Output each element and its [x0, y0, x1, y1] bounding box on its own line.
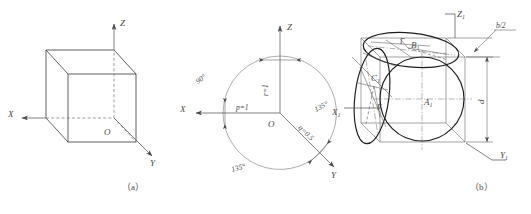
figure-a-axis-label-y: Y	[150, 158, 156, 168]
arc-angle-xz	[223, 56, 280, 113]
axis-y-line	[280, 113, 334, 167]
figure-middle-angle-xy: 135°	[230, 162, 246, 174]
figure-a-origin-label: O	[104, 127, 111, 137]
figure-b-axis-label-y1: Y1	[500, 150, 508, 161]
figure-b-gamma-label-left: Γ	[376, 103, 382, 112]
figure-sheet: Z X Y O （a） Z X Y O	[0, 0, 531, 214]
figure-b-group: X1 Z1 Y1 A1 B1 C1 Γ Γ b/2 d （b）	[331, 9, 516, 192]
figure-b-axis-label-z1: Z1	[457, 9, 465, 20]
figure-middle-coefficient-p: p=1	[235, 103, 249, 112]
tick-q-unit-2	[320, 144, 327, 152]
figure-middle-axis-label-x: X	[179, 104, 186, 114]
figure-b-ellipse-label-a1: A1	[423, 97, 433, 108]
axis-y1-leader	[466, 143, 492, 160]
figure-b-dimension-d: d	[476, 99, 486, 104]
figure-a-axes	[22, 24, 152, 156]
dimension-b-half-arrow	[474, 30, 496, 52]
cube-front-face	[68, 74, 136, 142]
figure-middle-axis-label-y: Y	[331, 170, 337, 180]
figure-a-axis-label-z: Z	[120, 18, 126, 28]
figure-b-ellipse-label-b1: B1	[411, 40, 420, 51]
cube-b-center-lines	[366, 46, 472, 150]
figure-b-dimension-b-half: b/2	[496, 21, 506, 30]
figure-b-axis-label-x1: X1	[331, 107, 341, 118]
figure-b-ellipse-label-c1: C1	[371, 73, 380, 84]
figure-b-caption: （b）	[470, 182, 493, 192]
tick-q-unit	[312, 152, 320, 160]
ellipse-top-b1	[361, 28, 460, 72]
figure-middle-origin-label: O	[268, 119, 275, 129]
figure-a-group: Z X Y O （a）	[7, 18, 156, 192]
figure-b-gamma-label-top: Γ	[399, 37, 405, 46]
figure-b-axes	[344, 14, 506, 160]
figure-middle-axis-label-z: Z	[287, 22, 293, 32]
technical-drawing-canvas: Z X Y O （a） Z X Y O	[0, 0, 531, 214]
dimension-d-group	[466, 57, 493, 142]
figure-middle-group: Z X Y O 90° 135° 135° p=1 q=0.5 r=1	[179, 22, 337, 180]
cube-top-and-back-edges	[46, 50, 136, 142]
figure-a-axis-label-x: X	[7, 109, 14, 119]
figure-a-caption: （a）	[122, 182, 144, 192]
axis-y-line	[114, 118, 152, 156]
figure-middle-angle-xz: 90°	[194, 72, 208, 85]
figure-middle-angle-zy: 135°	[313, 99, 330, 114]
cube-hidden-edges	[46, 50, 136, 142]
figure-middle-coefficient-r: r=1	[261, 84, 270, 96]
